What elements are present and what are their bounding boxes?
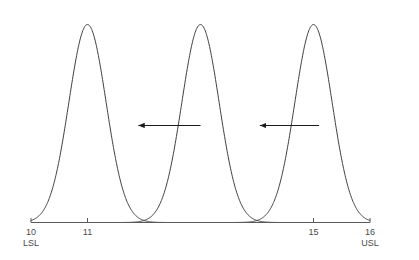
tick-value: 11 — [58, 227, 118, 238]
tick-label-16: 16USL — [340, 227, 400, 249]
tick-label-15: 15 — [284, 227, 344, 238]
distribution-curve-3 — [235, 25, 370, 223]
spec-limit-label-lsl: LSL — [1, 238, 61, 249]
tick-value: 15 — [284, 227, 344, 238]
distribution-curve-2 — [122, 25, 279, 223]
tick-label-10: 10LSL — [1, 227, 61, 249]
distribution-curve-1 — [31, 25, 166, 223]
x-axis — [31, 218, 370, 223]
distribution-curves — [31, 25, 370, 223]
axis-ticks — [31, 218, 370, 223]
tick-value: 10 — [1, 227, 61, 238]
plot-canvas — [0, 0, 419, 260]
spec-limit-label-usl: USL — [340, 238, 400, 249]
process-capability-chart: 10LSL111516USL — [0, 0, 419, 260]
tick-label-11: 11 — [58, 227, 118, 238]
tick-value: 16 — [340, 227, 400, 238]
